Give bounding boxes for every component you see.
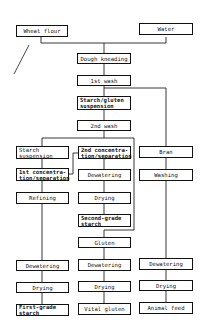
vital-gluten-box: Vital gluten (78, 303, 131, 315)
refining-box: Refining (16, 192, 69, 204)
second-wash-box: 2nd wash (77, 120, 131, 131)
second-drying-box: Drying (78, 192, 131, 204)
second-concentration-box: 2nd concentra- tion/separation (78, 146, 131, 159)
dough-kneading-box: Dough kneading (77, 53, 131, 64)
starch-suspension-box: Starch suspension (16, 146, 69, 159)
water-box: Water (139, 23, 193, 35)
bran-dewatering-box: Dewatering (139, 258, 193, 270)
gluten-box: Gluten (78, 237, 131, 248)
bran-box: Bran (139, 146, 193, 158)
washing-box: Washing (139, 169, 193, 181)
starch-dewatering-box: Dewatering (16, 260, 69, 271)
starch-drying-box: Drying (16, 282, 69, 293)
wheat-flour-box: Wheat flour (16, 25, 68, 37)
bran-drying-box: Drying (139, 280, 193, 291)
gluten-dewatering-box: Dewatering (78, 259, 131, 271)
second-dewatering-box: Dewatering (78, 169, 131, 181)
first-grade-starch-box: First-grade starch (16, 304, 69, 316)
pointer-line (14, 45, 29, 74)
gluten-drying-box: Drying (78, 281, 131, 292)
second-grade-starch-box: Second-grade starch (78, 214, 131, 227)
first-wash-box: 1st wash (77, 75, 131, 86)
first-concentration-box: 1st concentra- tion/separation (16, 168, 69, 181)
starch-gluten-suspension-box: Starch/gluten suspension (77, 96, 131, 110)
animal-feed-box: Animal feed (139, 302, 193, 314)
